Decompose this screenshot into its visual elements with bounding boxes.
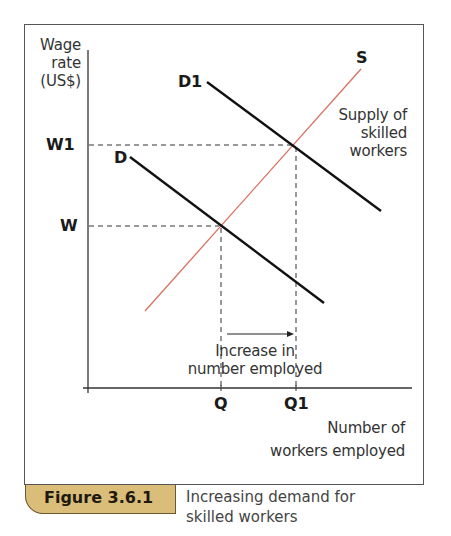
label-s: S (356, 49, 367, 67)
tick-w1: W1 (46, 136, 74, 154)
label-d1: D1 (178, 73, 202, 91)
increase-annotation: Increase in number employed (170, 342, 340, 378)
increase-arrow (227, 331, 294, 337)
tick-q: Q (214, 395, 227, 413)
label-d: D (114, 149, 127, 167)
supply-description: Supply of skilled workers (310, 106, 407, 160)
tick-q1: Q1 (284, 395, 308, 413)
demand-curve-d (130, 157, 324, 303)
x-axis-label: Number of workers employed (240, 417, 405, 463)
y-axis-label: Wage rate (US$) (24, 36, 81, 90)
figure-number: Figure 3.6.1 (44, 488, 153, 507)
tick-w: W (60, 217, 77, 235)
figure-caption: Increasing demand for skilled workers (186, 487, 355, 527)
